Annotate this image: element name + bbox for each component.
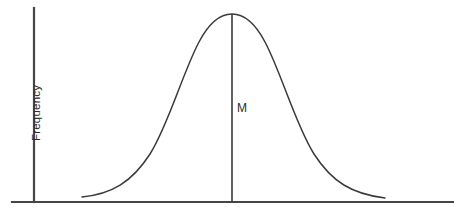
normal-distribution-curve [82,14,385,198]
chart-plot-area [0,0,454,215]
y-axis-label: Frequency [28,21,44,141]
mean-marker-label: M [237,101,247,115]
distribution-chart-figure: Frequency M [0,0,454,215]
